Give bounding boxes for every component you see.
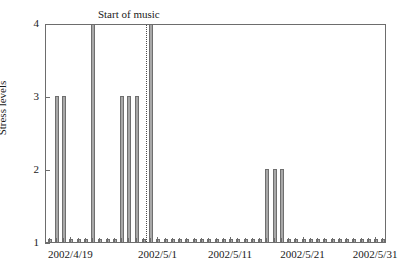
- x-tick-mark: [310, 238, 311, 243]
- x-tick-mark: [194, 238, 195, 243]
- x-tick-mark: [281, 238, 282, 243]
- x-tick-mark: [368, 238, 369, 243]
- x-tick-mark: [92, 238, 93, 243]
- bar: [120, 96, 124, 242]
- y-tick-mark: [45, 243, 50, 244]
- x-tick-mark: [332, 238, 333, 243]
- x-tick-mark: [324, 238, 325, 243]
- bar: [91, 25, 95, 242]
- x-tick-mark: [186, 238, 187, 243]
- x-tick-mark: [216, 238, 217, 243]
- x-tick-mark: [382, 238, 383, 243]
- x-tick-mark: [143, 238, 144, 243]
- bar: [62, 96, 66, 242]
- x-tick-mark: [128, 238, 129, 243]
- y-tick-label: 1: [13, 237, 39, 248]
- bar: [273, 169, 277, 242]
- y-tick-mark: [45, 97, 50, 98]
- x-tick-mark: [266, 238, 267, 243]
- bar: [149, 25, 153, 242]
- x-tick-mark: [165, 238, 166, 243]
- x-tick-mark: [288, 238, 289, 243]
- bar: [265, 169, 269, 242]
- x-tick-label: 2002/5/21: [280, 248, 325, 260]
- x-tick-mark: [353, 238, 354, 243]
- x-tick-mark: [317, 238, 318, 243]
- x-tick-mark: [252, 238, 253, 243]
- x-tick-label: 2002/5/1: [138, 248, 177, 260]
- y-tick-label: 3: [13, 91, 39, 102]
- x-tick-mark: [99, 238, 100, 243]
- x-tick-mark: [56, 238, 57, 243]
- stress-levels-chart: Stress levels Start of music 1234 2002/4…: [0, 0, 412, 279]
- bars-layer: [46, 25, 385, 242]
- x-tick-mark: [237, 238, 238, 243]
- x-tick-mark: [245, 238, 246, 243]
- x-tick-label: 2002/5/31: [353, 248, 398, 260]
- x-tick-mark-major: [375, 237, 376, 243]
- x-tick-mark: [295, 238, 296, 243]
- x-tick-mark: [179, 238, 180, 243]
- x-tick-label: 2002/4/19: [48, 248, 93, 260]
- x-tick-mark: [121, 238, 122, 243]
- x-tick-mark-major: [157, 237, 158, 243]
- x-tick-mark: [114, 238, 115, 243]
- x-tick-mark: [49, 238, 50, 243]
- bar: [280, 169, 284, 242]
- bar: [135, 96, 139, 242]
- y-tick-mark: [45, 24, 50, 25]
- plot-area: [45, 24, 386, 243]
- x-tick-mark-major: [70, 237, 71, 243]
- y-axis-label: Stress levels: [0, 81, 8, 136]
- x-tick-mark: [150, 238, 151, 243]
- x-tick-mark: [274, 238, 275, 243]
- x-tick-mark-major: [230, 237, 231, 243]
- x-tick-mark: [172, 238, 173, 243]
- x-tick-mark: [259, 238, 260, 243]
- x-tick-mark: [85, 238, 86, 243]
- y-tick-label: 2: [13, 164, 39, 175]
- x-tick-mark: [361, 238, 362, 243]
- x-tick-mark: [346, 238, 347, 243]
- x-tick-mark: [107, 238, 108, 243]
- x-tick-mark: [201, 238, 202, 243]
- x-tick-mark: [208, 238, 209, 243]
- y-tick-mark: [45, 170, 50, 171]
- bar: [55, 96, 59, 242]
- x-tick-mark: [223, 238, 224, 243]
- x-tick-mark-major: [303, 237, 304, 243]
- start-of-music-annotation: Start of music: [98, 8, 160, 20]
- y-tick-label: 4: [13, 18, 39, 29]
- x-tick-label: 2002/5/11: [208, 248, 252, 260]
- x-tick-mark: [78, 238, 79, 243]
- x-tick-mark: [63, 238, 64, 243]
- bar: [127, 96, 131, 242]
- x-tick-mark: [136, 238, 137, 243]
- start-of-music-line: [146, 25, 147, 242]
- x-tick-mark: [339, 238, 340, 243]
